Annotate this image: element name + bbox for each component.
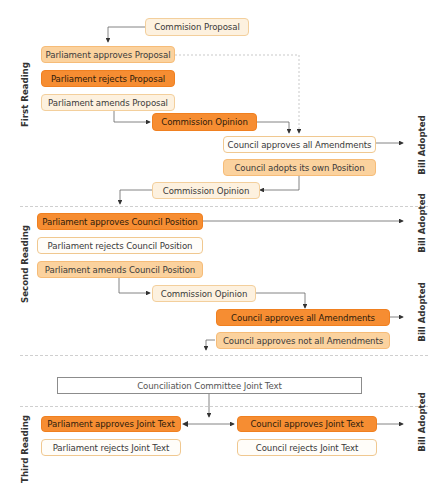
council-approves-not-all-amendments-box: Council approves not all Amendments — [216, 332, 390, 349]
third-reading-label: Third Reading — [20, 415, 30, 483]
council-approves-joint-text-box: Council approves Joint Text — [237, 416, 377, 432]
section-divider — [20, 406, 428, 407]
second-reading-label: Second Reading — [20, 225, 30, 303]
commission-opinion-box: Commission Opinion — [152, 285, 256, 302]
parliament-rejects-proposal-box: Parliament rejects Proposal — [41, 70, 175, 87]
bill-adopted-label: Bill Adopted — [417, 281, 427, 343]
parliament-approves-proposal-box: Parliament approves Proposal — [41, 46, 175, 63]
parliament-amends-proposal-box: Parliament amends Proposal — [41, 94, 175, 111]
first-reading-label: First Reading — [20, 67, 30, 127]
bill-adopted-label: Bill Adopted — [417, 391, 427, 453]
conciliation-committee-box: Counciliation Committee Joint Text — [57, 377, 362, 394]
parliament-approves-council-position-box: Parliament approves Council Position — [37, 213, 203, 230]
commission-opinion-box: Commission Opinion — [152, 113, 257, 131]
commission-proposal-box: Commision Proposal — [145, 18, 249, 36]
parliament-approves-joint-text-box: Parliament approves Joint Text — [41, 416, 181, 432]
bill-adopted-label: Bill Adopted — [417, 114, 427, 176]
bill-adopted-label: Bill Adopted — [417, 192, 427, 254]
council-rejects-joint-text-box: Council rejects Joint Text — [237, 439, 377, 456]
parliament-rejects-council-position-box: Parliament rejects Council Position — [37, 237, 203, 254]
parliament-rejects-joint-text-box: Parliament rejects Joint Text — [41, 439, 181, 456]
council-approves-all-amendments-box: Council approves all Amendments — [223, 136, 376, 153]
parliament-amends-council-position-box: Parliament amends Council Position — [37, 261, 203, 278]
commission-opinion-box: Commission Opinion — [152, 182, 260, 199]
section-divider — [20, 206, 428, 207]
council-adopts-own-position-box: Council adopts its own Position — [223, 159, 376, 176]
section-divider — [20, 355, 428, 356]
council-approves-all-amendments-box: Council approves all Amendments — [216, 309, 390, 326]
